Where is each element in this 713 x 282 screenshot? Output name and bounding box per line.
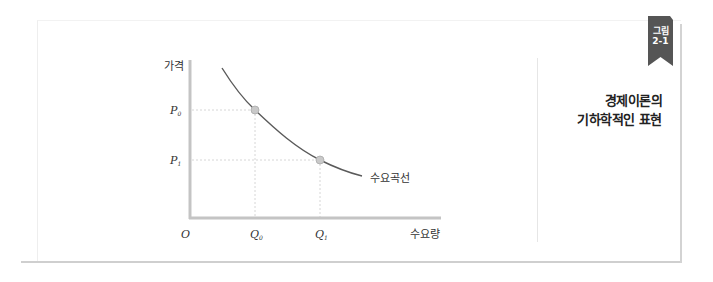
demand-curve-chart: 가격 P0 P1 O Q0 Q1 수요량 수요곡선: [0, 0, 713, 282]
point-q1-p1: [316, 156, 324, 164]
figure-badge: 그림 2-1: [648, 26, 673, 46]
p1-label: P1: [169, 154, 181, 167]
point-q0-p0: [251, 106, 259, 114]
figure-title-line2: 기하학적인 표현: [577, 110, 662, 129]
guide-lines: [192, 110, 320, 217]
p0-label: P0: [169, 104, 181, 117]
origin-label: O: [181, 228, 190, 241]
curve-label: 수요곡선: [370, 172, 410, 185]
q1-label: Q1: [315, 228, 328, 241]
x-axis-label: 수요량: [410, 228, 440, 241]
figure-title-line1: 경제이론의: [577, 91, 662, 110]
figure-title: 경제이론의 기하학적인 표현: [577, 91, 662, 129]
figure-badge-label: 그림: [648, 26, 673, 36]
figure-badge-number: 2-1: [648, 36, 673, 46]
q0-label: Q0: [250, 228, 263, 241]
y-axis-label: 가격: [164, 60, 184, 73]
